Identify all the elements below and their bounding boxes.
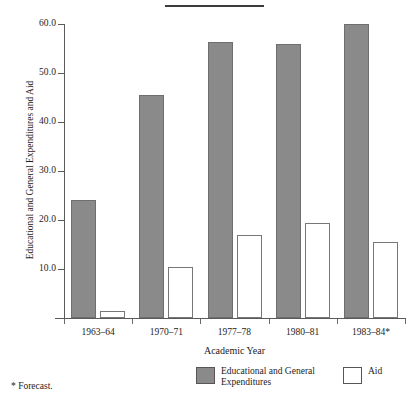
x-axis-tick — [132, 319, 133, 324]
x-axis-tick — [200, 319, 201, 324]
bar-expenditures — [208, 42, 233, 318]
bar-aid — [305, 223, 330, 318]
bar-aid — [237, 235, 262, 318]
legend-entry-aid: Aid — [343, 366, 382, 384]
title-rule — [165, 5, 264, 7]
bar-expenditures — [71, 200, 96, 318]
x-axis-tick — [405, 319, 406, 324]
x-axis-tick — [337, 319, 338, 324]
legend-label-aid: Aid — [368, 366, 382, 377]
bar-expenditures — [344, 24, 369, 318]
x-axis-category-label: 1983–84* — [337, 327, 405, 337]
x-axis-tick — [269, 319, 270, 324]
y-axis-tick-label-wrap: 60.0 — [16, 19, 56, 29]
y-axis-title: Educational and General Expenditures and… — [25, 54, 35, 286]
x-axis-category-label: 1963–64 — [64, 327, 132, 337]
bar-aid — [168, 267, 193, 318]
bar-aid — [373, 242, 398, 318]
y-axis-tick-label-wrap: 40.0 — [16, 117, 56, 127]
legend-swatch-expenditures-icon — [196, 367, 215, 384]
y-axis-tick-label-wrap: 20.0 — [16, 215, 56, 225]
x-axis-title: Academic Year — [64, 345, 405, 356]
plot-area — [64, 24, 405, 318]
x-axis-category-label: 1980–81 — [269, 327, 337, 337]
x-axis-category-label: 1970–71 — [132, 327, 200, 337]
x-axis-line — [55, 318, 406, 319]
x-axis-category-label: 1977–78 — [200, 327, 268, 337]
bar-expenditures — [139, 95, 164, 318]
legend-swatch-aid-icon — [343, 367, 362, 384]
x-axis-tick — [64, 319, 65, 324]
y-axis-tick-label-wrap: 50.0 — [16, 68, 56, 78]
bar-aid — [100, 311, 125, 318]
legend-label-expenditures: Educational and General Expenditures — [221, 366, 333, 388]
chart-legend: Educational and General Expenditures Aid — [196, 366, 382, 388]
y-axis-tick-label-wrap: 10.0 — [16, 264, 56, 274]
footnote: * Forecast. — [11, 381, 53, 391]
y-axis-tick-label-wrap: 30.0 — [16, 166, 56, 176]
bar-expenditures — [276, 44, 301, 318]
legend-entry-expenditures: Educational and General Expenditures — [196, 366, 333, 388]
y-axis-tick-label: 60.0 — [20, 19, 56, 29]
